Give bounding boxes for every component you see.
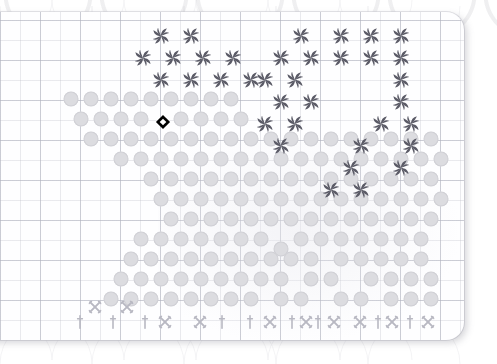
selected-cell-cursor[interactable] xyxy=(156,115,171,130)
board-stage xyxy=(0,0,497,364)
cursor-layer xyxy=(0,12,464,340)
map-card[interactable] xyxy=(0,12,464,340)
